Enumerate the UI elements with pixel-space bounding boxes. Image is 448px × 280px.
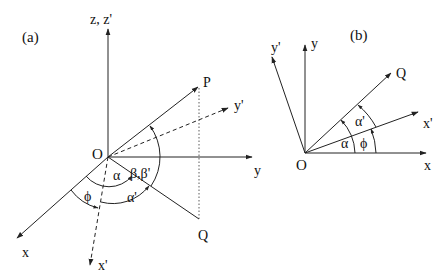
origin-label-b: O: [296, 157, 307, 173]
b-alpha-label: α: [341, 136, 349, 151]
panel-a-tag: (a): [22, 29, 39, 46]
panel-b-tag: (b): [350, 27, 368, 44]
beta-arc: [150, 126, 160, 186]
coordinate-rotation-diagram: (a) z, z' y x x' y' P Q O β,β' α: [0, 0, 448, 280]
panel-a: (a) z, z' y x x' y' P Q O β,β' α: [17, 12, 261, 273]
point-q-label: Q: [198, 228, 208, 243]
op-vector: [108, 87, 198, 157]
b-y-axis-label: y: [311, 36, 318, 51]
beta-label: β,β': [130, 166, 150, 181]
alpha-label: α: [113, 168, 121, 183]
b-phi-label: ϕ: [360, 136, 367, 151]
origin-label-a: O: [92, 146, 103, 162]
y-prime-axis: [108, 108, 228, 157]
b-y-prime-axis-label: y': [271, 40, 281, 55]
x-prime-axis: [90, 157, 108, 265]
b-alpha-prime-label: α': [355, 114, 365, 129]
b-x-prime-axis-label: x': [423, 116, 433, 131]
panel-b: (b) x y x' y' Q O α ϕ α': [271, 27, 433, 173]
alpha-arc: [86, 176, 132, 187]
point-p-label: P: [203, 75, 211, 90]
alpha-prime-arc: [101, 186, 149, 204]
x-axis-label: x: [22, 245, 29, 260]
x-axis: [17, 157, 108, 238]
b-phi-arc: [371, 129, 376, 153]
alpha-prime-label: α': [127, 190, 137, 205]
y-prime-axis-label: y': [234, 98, 244, 113]
x-prime-axis-label: x': [98, 258, 108, 273]
b-y-prime-axis: [272, 57, 305, 153]
z-axis-label: z, z': [90, 12, 112, 27]
phi-label: ϕ: [84, 189, 91, 204]
b-point-q-label: Q: [396, 66, 406, 81]
b-x-axis-label: x: [424, 158, 431, 173]
y-axis-label: y: [254, 163, 261, 178]
oq-line: [108, 157, 199, 219]
